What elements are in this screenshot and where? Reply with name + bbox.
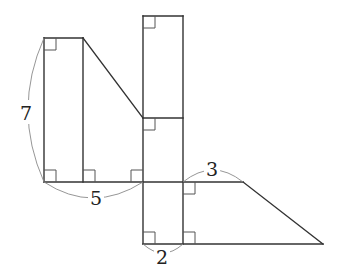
right-angle-icon xyxy=(83,170,95,182)
geometry-diagram: 7 5 3 2 xyxy=(0,0,353,273)
right-trapezoid xyxy=(143,182,323,244)
right-angle-icon xyxy=(143,16,155,28)
label-width-2: 2 xyxy=(156,246,168,268)
label-height-7: 7 xyxy=(20,102,32,124)
dimension-arcs xyxy=(28,38,243,253)
right-angle-icon xyxy=(44,38,56,50)
label-base-5: 5 xyxy=(90,187,102,209)
slanted-edge-upper xyxy=(83,38,143,118)
right-angle-icon xyxy=(131,170,143,182)
right-angle-marks xyxy=(44,16,195,244)
right-angle-icon xyxy=(183,182,195,194)
right-angle-icon xyxy=(143,232,155,244)
right-angle-icon xyxy=(183,232,195,244)
right-angle-icon xyxy=(44,170,56,182)
left-rectangle xyxy=(44,38,83,182)
label-top-3: 3 xyxy=(206,158,218,180)
right-angle-icon xyxy=(143,118,155,130)
